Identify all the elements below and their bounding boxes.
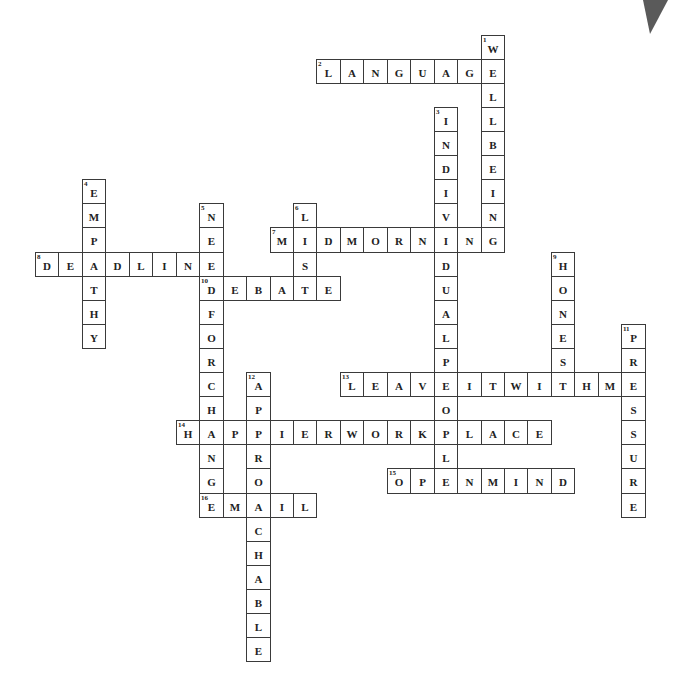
- corner-triangle-icon: [0, 0, 677, 692]
